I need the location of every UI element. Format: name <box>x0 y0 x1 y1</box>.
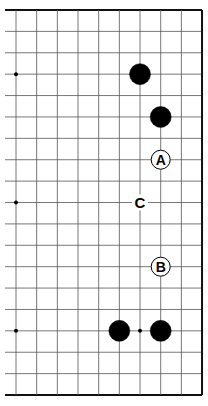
label-b: B <box>151 257 170 276</box>
label-c: C <box>132 194 148 211</box>
black-stone <box>150 320 171 341</box>
star-point <box>138 329 142 333</box>
black-stone <box>109 320 130 341</box>
star-point <box>14 201 18 205</box>
black-stone <box>130 64 151 85</box>
black-stone <box>150 106 171 127</box>
label-text: A <box>156 152 166 168</box>
labels: ACB <box>132 150 170 276</box>
board-grid <box>5 10 202 395</box>
star-point <box>14 72 18 76</box>
label-text: B <box>156 259 166 275</box>
star-point <box>14 329 18 333</box>
label-a: A <box>151 150 170 169</box>
go-board: ACB <box>0 0 208 406</box>
label-text: C <box>135 194 146 211</box>
